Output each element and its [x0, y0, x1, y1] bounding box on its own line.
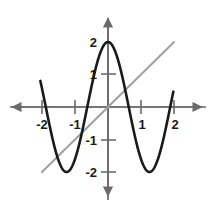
y-tick-label--1: -1: [85, 133, 97, 148]
x-tick-label-1: 1: [138, 117, 145, 132]
graph-figure: -2 -1 1 2 2 1 -1 -2: [0, 0, 213, 211]
x-tick-label-2: 2: [171, 117, 178, 132]
x-tick-label--2: -2: [36, 117, 48, 132]
y-tick-label--2: -2: [85, 165, 97, 180]
plot-area: -2 -1 1 2 2 1 -1 -2: [0, 0, 213, 211]
y-tick-label-1: 1: [90, 67, 97, 82]
x-tick-label--1: -1: [69, 117, 81, 132]
y-tick-label-2: 2: [90, 35, 97, 50]
